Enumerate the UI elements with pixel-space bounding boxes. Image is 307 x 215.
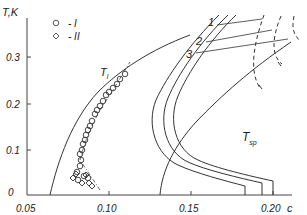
t-sp-intersections — [259, 62, 281, 89]
y-axis-label: T,K — [2, 6, 19, 18]
diamond-marker-icon — [53, 33, 59, 39]
legend: - I - II — [53, 18, 80, 42]
label-1: 1 — [208, 16, 214, 28]
label-2: 2 — [195, 35, 202, 47]
curve-t-l — [50, 35, 190, 195]
dashed-curves — [254, 15, 299, 88]
curve-labels: 1 2 3 — [186, 16, 288, 60]
x-tick-0.20: 0.20 — [261, 203, 281, 214]
label-t-sp: Tsp — [242, 130, 257, 147]
legend-label-ii: - II — [68, 31, 80, 42]
label-t-l: Tl — [100, 66, 109, 80]
x-tick-0.05: 0.05 — [16, 203, 36, 214]
legend-label-i: - I — [68, 18, 77, 29]
curve-1 — [174, 15, 273, 195]
series-i-markers — [74, 71, 128, 183]
circle-marker-icon — [53, 20, 59, 26]
y-tick-0.3: 0.3 — [6, 52, 20, 63]
phase-diagram-chart: T,K c 0.3 0.2 0.1 0 0.05 0.10 0.15 0.20 … — [0, 0, 307, 215]
y-tick-0.2: 0.2 — [6, 99, 20, 110]
x-tick-0.15: 0.15 — [179, 203, 199, 214]
label-3: 3 — [186, 48, 193, 60]
x-tick-0.10: 0.10 — [97, 203, 117, 214]
curve-t-sp — [160, 42, 291, 195]
y-tick-0: 0 — [8, 187, 14, 198]
y-tick-0.1: 0.1 — [6, 145, 20, 156]
x-axis-label: c — [287, 202, 293, 214]
